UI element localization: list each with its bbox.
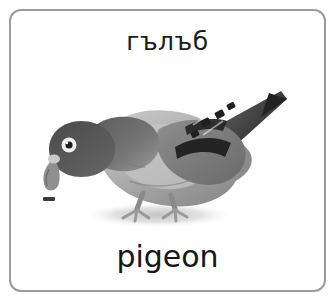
- cere: [48, 155, 60, 164]
- screenshot-root: гълъб: [0, 0, 336, 300]
- head: [49, 121, 115, 177]
- ground-shadow: [80, 202, 236, 228]
- word-bulgarian: гълъб: [11, 27, 324, 57]
- word-english: pigeon: [11, 240, 324, 274]
- eye-glint: [66, 142, 68, 144]
- pigeon-illustration: [25, 69, 310, 239]
- seed: [43, 197, 55, 201]
- vocabulary-flashcard: гълъб: [9, 9, 326, 292]
